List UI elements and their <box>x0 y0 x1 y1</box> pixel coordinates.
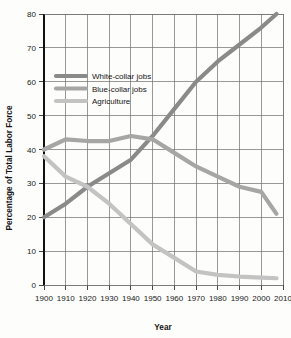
legend-label-2: Agriculture <box>92 97 131 106</box>
x-tick-label-1990: 1990 <box>231 294 249 303</box>
x-tick-label-1940: 1940 <box>122 294 140 303</box>
y-tick-label-10: 10 <box>27 247 36 256</box>
y-tick-label-20: 20 <box>27 213 36 222</box>
y-tick-label-70: 70 <box>27 44 36 53</box>
y-axis-title: Percentage of Total Labor Force <box>5 105 14 230</box>
x-tick-label-1950: 1950 <box>144 294 162 303</box>
x-tick-label-1930: 1930 <box>100 294 118 303</box>
x-tick-label-1920: 1920 <box>79 294 97 303</box>
x-tick-label-2010: 2010 <box>274 294 291 303</box>
y-tick-label-50: 50 <box>27 112 36 121</box>
labor-force-line-chart: 01020304050607080 1900191019201930194019… <box>0 0 291 338</box>
y-tick-label-30: 30 <box>27 179 36 188</box>
y-tick-label-80: 80 <box>27 10 36 19</box>
legend-label-1: Blue-collar jobs <box>92 85 147 94</box>
x-tick-label-2000: 2000 <box>252 294 270 303</box>
y-tick-label-60: 60 <box>27 78 36 87</box>
legend-label-0: White-collar jobs <box>92 72 151 81</box>
chart-figure: 01020304050607080 1900191019201930194019… <box>0 0 291 338</box>
x-tick-label-1900: 1900 <box>35 294 53 303</box>
y-tick-label-40: 40 <box>27 146 36 155</box>
x-tick-label-1960: 1960 <box>165 294 183 303</box>
x-tick-label-1970: 1970 <box>187 294 205 303</box>
y-axis-tick-labels: 01020304050607080 <box>27 10 36 290</box>
y-tick-label-0: 0 <box>32 281 37 290</box>
x-axis-title: Year <box>154 323 172 332</box>
x-tick-label-1980: 1980 <box>209 294 227 303</box>
x-tick-label-1910: 1910 <box>57 294 75 303</box>
